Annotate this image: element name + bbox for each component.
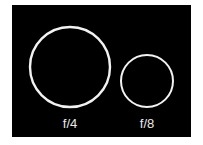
aperture-label-f4: f/4: [63, 117, 77, 130]
aperture-circle-f4: [30, 27, 110, 107]
aperture-diagram: [0, 0, 203, 145]
aperture-label-f8: f/8: [140, 117, 154, 130]
aperture-circle-f8: [121, 55, 173, 107]
